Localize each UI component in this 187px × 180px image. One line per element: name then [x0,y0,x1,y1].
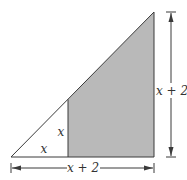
horizontal-dimension-label: x + 2 [67,161,99,175]
small-height-label: x [58,125,65,139]
horizontal-dimension-label-text: x + 2 [67,161,99,175]
shaded-region [68,12,154,157]
triangle-diagram: x x x + 2 x + 2 [0,0,187,180]
arrow-up-icon [169,13,174,22]
arrow-left-icon [12,166,21,171]
small-base-label: x [41,142,48,156]
arrow-down-icon [169,147,174,156]
arrow-right-icon [144,166,153,171]
vertical-dimension-label-text: x + 2 [156,84,187,98]
vertical-dimension-label: x + 2 [156,84,187,98]
